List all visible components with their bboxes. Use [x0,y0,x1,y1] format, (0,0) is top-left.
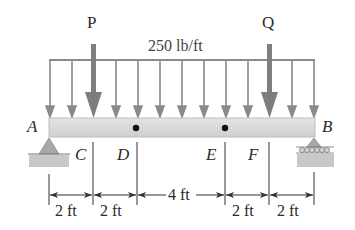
distributed-load-label: 250 lb/ft [148,38,203,54]
point-label-c: C [75,146,86,163]
point-e-marker [222,125,228,131]
roller-support-icon [296,138,334,167]
point-label-b: B [322,118,332,135]
dimension-label-4: 2 ft [232,203,254,219]
load-label-p: P [87,14,96,31]
point-d-marker [133,125,139,131]
beam [49,118,315,137]
point-load-p-arrow-icon [85,44,102,118]
beam-diagram: P Q 250 lb/ft A B C D E F 2 ft 2 ft 4 ft… [0,0,355,230]
load-label-q: Q [262,14,274,31]
distributed-load [46,60,318,117]
point-label-e: E [206,146,216,163]
point-label-a: A [27,118,37,135]
dimension-label-3: 4 ft [168,187,190,203]
point-label-d: D [117,146,129,163]
pin-support-icon [28,138,70,167]
point-load-q-arrow-icon [261,44,278,118]
dimension-label-1: 2 ft [55,203,77,219]
dimension-label-2: 2 ft [100,203,122,219]
point-label-f: F [248,146,258,163]
dimension-label-5: 2 ft [277,203,299,219]
